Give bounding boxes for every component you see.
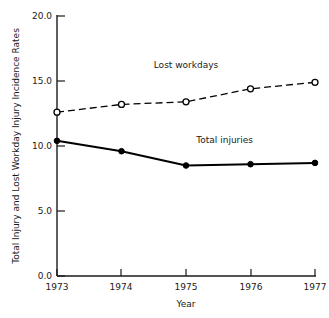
y-tick-label-0: 0.0	[38, 271, 53, 281]
data-point	[54, 138, 60, 144]
x-tick-label-1976: 1976	[240, 282, 263, 292]
y-tick-label-15: 15.0	[32, 76, 52, 86]
series-annotation-total-injuries: Total injuries	[195, 135, 253, 145]
series-line-lost-workdays	[57, 82, 315, 112]
data-point	[312, 79, 318, 85]
x-tick-label-1977: 1977	[304, 282, 327, 292]
data-point	[119, 101, 125, 107]
x-tick-label-1974: 1974	[110, 282, 133, 292]
y-tick-label-20: 20.0	[32, 11, 52, 21]
data-point	[312, 160, 318, 166]
data-point	[54, 109, 60, 115]
series-line-total-injuries	[57, 141, 315, 166]
data-point	[183, 163, 189, 169]
y-tick-label-5: 5.0	[38, 206, 53, 216]
data-point	[248, 161, 254, 167]
data-point	[248, 86, 254, 92]
y-axis-title: Total Injury and Lost Workday Injury Inc…	[11, 28, 21, 265]
x-axis-ticks	[57, 269, 315, 276]
y-axis-ticks	[57, 16, 65, 276]
series-annotation-lost-workdays: Lost workdays	[154, 60, 219, 70]
series-markers-lost-workdays	[54, 79, 318, 115]
x-tick-label-1975: 1975	[175, 282, 198, 292]
y-tick-label-10: 10.0	[32, 141, 52, 151]
data-point	[183, 99, 189, 105]
chart-container: 20.0 15.0 10.0 5.0 0.0 1973 1974 1975 19…	[0, 0, 329, 318]
x-axis-title: Year	[175, 299, 195, 309]
data-point	[119, 148, 125, 154]
x-tick-label-1973: 1973	[46, 282, 69, 292]
line-chart: 20.0 15.0 10.0 5.0 0.0 1973 1974 1975 19…	[0, 0, 329, 318]
